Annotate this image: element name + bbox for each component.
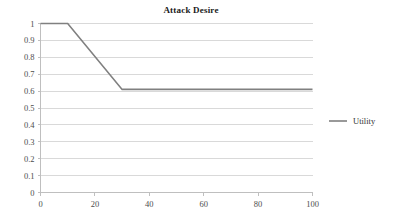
y-tick-label: 0.3 — [24, 137, 35, 147]
chart-background — [0, 0, 405, 223]
x-tick-label: 20 — [91, 199, 100, 209]
x-tick-label: 40 — [145, 199, 154, 209]
x-tick-label: 60 — [199, 199, 208, 209]
y-tick-label: 0 — [30, 188, 34, 198]
legend-label-utility: Utility — [353, 116, 376, 126]
x-tick-label: 100 — [306, 199, 319, 209]
y-tick-label: 0.4 — [24, 120, 35, 130]
y-tick-label: 0.8 — [24, 52, 35, 62]
attack-desire-line-chart: Attack Desire 00.10.20.30.40.50.60.70.80… — [0, 0, 405, 223]
x-tick-label: 0 — [38, 199, 42, 209]
y-tick-label: 1 — [30, 19, 34, 29]
x-tick-label: 80 — [254, 199, 263, 209]
chart-title: Attack Desire — [163, 5, 218, 15]
chart-container: Attack Desire 00.10.20.30.40.50.60.70.80… — [0, 0, 405, 223]
y-tick-label: 0.7 — [24, 69, 35, 79]
y-tick-label: 0.2 — [24, 154, 35, 164]
y-tick-label: 0.1 — [24, 171, 35, 181]
y-tick-label: 0.9 — [24, 35, 35, 45]
y-tick-label: 0.6 — [24, 86, 35, 96]
y-tick-label: 0.5 — [24, 103, 35, 113]
